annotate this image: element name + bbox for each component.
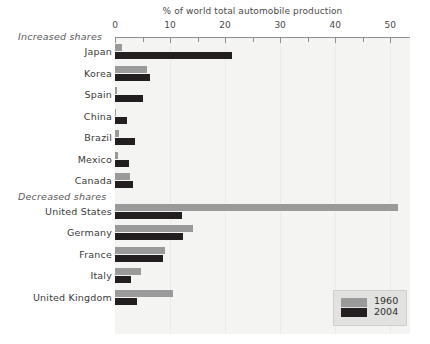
x-axis-minor-tick bbox=[143, 38, 144, 42]
bar-group bbox=[115, 66, 410, 82]
x-axis-minor-tick bbox=[308, 38, 309, 42]
legend-label-2004: 2004 bbox=[374, 306, 398, 317]
bar-2004 bbox=[115, 255, 163, 262]
bar-group bbox=[115, 173, 410, 189]
bar-2004 bbox=[115, 95, 143, 102]
bar-1960 bbox=[115, 66, 147, 73]
bar-2004 bbox=[115, 138, 135, 145]
category-label-mexico: Mexico bbox=[78, 154, 112, 165]
bar-2004 bbox=[115, 298, 137, 305]
bar-1960 bbox=[115, 152, 118, 159]
category-label-united-kingdom: United Kingdom bbox=[33, 292, 112, 303]
bar-2004 bbox=[115, 181, 133, 188]
bar-1960 bbox=[115, 225, 193, 232]
bar-1960 bbox=[115, 87, 117, 94]
bar-2004 bbox=[115, 160, 129, 167]
category-label-china: China bbox=[84, 111, 112, 122]
bar-group bbox=[115, 44, 410, 60]
x-axis-tick-40 bbox=[335, 38, 336, 43]
category-label-japan: Japan bbox=[85, 46, 113, 57]
bar-2004 bbox=[115, 276, 131, 283]
bar-group bbox=[115, 152, 410, 168]
x-axis-minor-tick bbox=[363, 38, 364, 42]
x-axis-minor-tick bbox=[198, 38, 199, 42]
x-axis-tick-10 bbox=[170, 38, 171, 43]
chart-legend: 1960 2004 bbox=[333, 290, 407, 326]
category-label-brazil: Brazil bbox=[84, 132, 112, 143]
bar-1960 bbox=[115, 268, 141, 275]
bar-group bbox=[115, 109, 410, 125]
x-axis-tick-30 bbox=[280, 38, 281, 43]
bar-1960 bbox=[115, 109, 116, 116]
bar-1960 bbox=[115, 130, 119, 137]
legend-swatch-2004 bbox=[341, 308, 367, 317]
bar-2004 bbox=[115, 52, 232, 59]
bar-2004 bbox=[115, 74, 150, 81]
legend-swatch-1960 bbox=[341, 298, 367, 307]
section-label-decreased-shares: Decreased shares bbox=[18, 191, 107, 202]
category-label-united-states: United States bbox=[45, 206, 112, 217]
category-label-spain: Spain bbox=[84, 89, 112, 100]
x-axis-minor-tick bbox=[253, 38, 254, 42]
bar-group bbox=[115, 204, 410, 220]
bar-group bbox=[115, 130, 410, 146]
x-axis-tick-20 bbox=[225, 38, 226, 43]
x-axis-tick-label-20: 20 bbox=[219, 20, 230, 30]
bar-1960 bbox=[115, 290, 173, 297]
bar-2004 bbox=[115, 233, 183, 240]
bar-1960 bbox=[115, 247, 165, 254]
x-axis-tick-label-40: 40 bbox=[329, 20, 340, 30]
x-axis-tick-label-50: 50 bbox=[384, 20, 395, 30]
x-axis-tick-50 bbox=[390, 38, 391, 43]
legend-label-1960: 1960 bbox=[374, 295, 398, 306]
bar-2004 bbox=[115, 117, 127, 124]
section-label-increased-shares: Increased shares bbox=[18, 31, 102, 42]
bar-group bbox=[115, 87, 410, 103]
category-label-korea: Korea bbox=[84, 68, 112, 79]
x-axis-tick-label-0: 0 bbox=[112, 20, 118, 30]
category-label-italy: Italy bbox=[90, 270, 112, 281]
chart-title: % of world total automobile production bbox=[115, 6, 390, 16]
bar-group bbox=[115, 225, 410, 241]
category-label-germany: Germany bbox=[67, 227, 112, 238]
bar-1960 bbox=[115, 44, 122, 51]
bar-1960 bbox=[115, 173, 130, 180]
bar-2004 bbox=[115, 212, 182, 219]
x-axis-tick-label-10: 10 bbox=[164, 20, 175, 30]
category-label-france: France bbox=[79, 249, 112, 260]
automobile-production-chart: % of world total automobile production 0… bbox=[0, 0, 430, 344]
bar-1960 bbox=[115, 204, 398, 211]
x-axis-tick-0 bbox=[115, 38, 116, 43]
bar-group bbox=[115, 247, 410, 263]
bar-group bbox=[115, 268, 410, 284]
x-axis-tick-label-30: 30 bbox=[274, 20, 285, 30]
category-label-canada: Canada bbox=[75, 175, 112, 186]
